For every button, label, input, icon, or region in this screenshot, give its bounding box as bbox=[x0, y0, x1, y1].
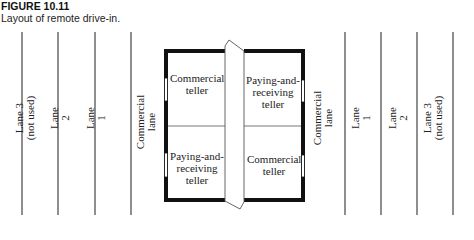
room-top-left-label: Commercial teller bbox=[170, 72, 224, 96]
lane-label-left-commercial: Commerciallane bbox=[135, 92, 159, 152]
room-bottom-left-label: Paying-and-receiving teller bbox=[168, 150, 226, 186]
lane-label-left-lane1: Lane1 bbox=[85, 103, 109, 133]
lane-label-right-lane1: Lane1 bbox=[350, 103, 374, 133]
lane-label-right-commercial: Commerciallane bbox=[312, 88, 336, 148]
lane-label-right-lane2: Lane2 bbox=[387, 103, 411, 133]
room-bottom-right-label: Commercial teller bbox=[247, 153, 301, 177]
right-teller-building bbox=[244, 49, 305, 202]
lane-label-left-lane2: Lane2 bbox=[49, 103, 73, 133]
lane-label-right-lane3: Lane 3(not used) bbox=[422, 88, 446, 148]
lane-label-left-lane3: Lane 3(not used) bbox=[14, 88, 38, 148]
room-top-right-label: Paying-and-receiving teller bbox=[244, 74, 302, 110]
central-passage bbox=[225, 40, 244, 209]
